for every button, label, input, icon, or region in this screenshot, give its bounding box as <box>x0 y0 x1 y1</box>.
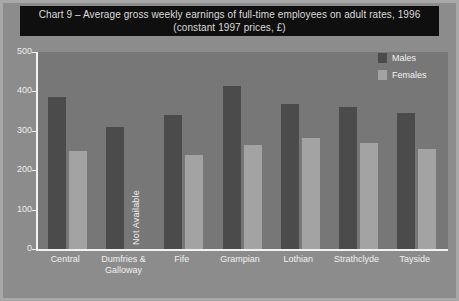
legend-swatch-females-icon <box>378 70 387 80</box>
bar-females-central <box>69 151 87 249</box>
x-axis-category-label: Tayside <box>386 254 444 265</box>
bar-group <box>223 52 262 249</box>
y-axis-tick-label: 300 <box>6 125 32 135</box>
y-axis-tick-label: 500 <box>6 46 32 56</box>
chart-legend: Males Females <box>378 52 454 86</box>
bar-females-tayside <box>418 149 436 249</box>
x-axis-category-label: Lothian <box>269 254 327 265</box>
y-axis-labels: 0100200300400500 <box>0 52 32 252</box>
y-axis-tick-mark <box>32 131 36 132</box>
bar-group <box>281 52 320 249</box>
legend-item-females: Females <box>378 69 454 80</box>
bar-group <box>339 52 378 249</box>
bar-females-fife <box>185 155 203 249</box>
bar-females-grampian <box>244 145 262 249</box>
legend-swatch-males-icon <box>378 53 387 63</box>
bar-males-grampian <box>223 86 241 250</box>
y-axis-tick-label: 200 <box>6 164 32 174</box>
bar-females-lothian <box>302 138 320 249</box>
y-axis-tick-mark <box>32 210 36 211</box>
bar-group <box>48 52 87 249</box>
source-note <box>6 294 306 300</box>
x-axis-category-label: Fife <box>153 254 211 265</box>
x-axis-category-label: Strathclyde <box>327 254 385 265</box>
x-axis-category-label: Grampian <box>211 254 269 265</box>
bar-males-tayside <box>397 113 415 249</box>
x-axis-category-label: Dumfries & Galloway <box>94 254 152 276</box>
legend-label-males: Males <box>392 53 416 63</box>
x-axis-line <box>36 249 448 251</box>
x-axis-category-labels: CentralDumfries & GallowayFifeGrampianLo… <box>36 254 448 284</box>
y-axis-tick-mark <box>32 249 36 250</box>
y-axis-tick-label: 400 <box>6 85 32 95</box>
bar-group: Not Available <box>106 52 145 249</box>
bar-males-dumfries-galloway <box>106 127 124 249</box>
chart-title-bar: Chart 9 – Average gross weekly earnings … <box>20 6 439 36</box>
bar-males-strathclyde <box>339 107 357 249</box>
y-axis-tick-label: 100 <box>6 204 32 214</box>
not-available-label: Not Available <box>131 190 141 245</box>
bar-females-strathclyde <box>360 143 378 249</box>
bar-group <box>164 52 203 249</box>
x-axis-category-label: Central <box>36 254 94 265</box>
y-axis-tick-mark <box>32 52 36 53</box>
legend-label-females: Females <box>392 70 427 80</box>
chart-page: Chart 9 – Average gross weekly earnings … <box>0 0 459 301</box>
y-axis-tick-mark <box>32 91 36 92</box>
bar-males-central <box>48 97 66 249</box>
y-axis-tick-mark <box>32 170 36 171</box>
page-title: Chart 9 – Average gross weekly earnings … <box>20 8 439 34</box>
bar-males-lothian <box>281 104 299 249</box>
bar-males-fife <box>164 115 182 249</box>
y-axis-tick-label: 0 <box>6 243 32 253</box>
y-axis-line <box>36 52 38 251</box>
legend-item-males: Males <box>378 52 454 63</box>
